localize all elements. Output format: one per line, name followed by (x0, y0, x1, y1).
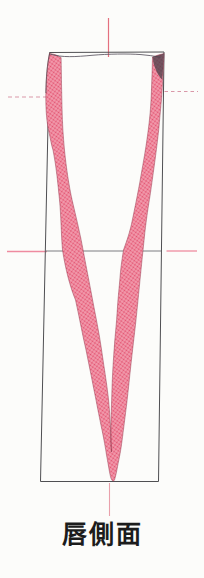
paper-background (0, 0, 204, 578)
tooth-diagram-canvas (0, 0, 204, 578)
tooth-diagram-figure: 唇側面 (0, 0, 204, 578)
figure-caption: 唇側面 (0, 514, 204, 550)
